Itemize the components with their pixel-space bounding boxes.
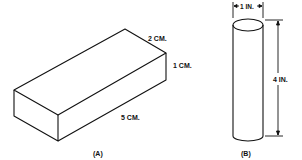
label-length: 5 CM. xyxy=(121,114,140,121)
cylinder-top-ellipse xyxy=(233,19,263,31)
label-height-a: 1 CM. xyxy=(173,62,192,69)
figure-a-box xyxy=(14,29,166,141)
caption-a: (A) xyxy=(93,150,103,158)
diagram-canvas: 2 CM. 1 CM. 5 CM. (A) 1 IN. 4 IN. (B) xyxy=(0,0,302,160)
box-side-edges xyxy=(58,53,166,141)
box-front-edges xyxy=(14,90,58,141)
box-top-face xyxy=(14,29,166,115)
label-width: 2 CM. xyxy=(148,35,167,42)
label-height-b: 4 IN. xyxy=(273,76,288,83)
caption-b: (B) xyxy=(241,150,251,158)
figure-b-cylinder xyxy=(233,19,263,141)
cylinder-bottom-arc xyxy=(233,136,263,141)
label-diameter: 1 IN. xyxy=(240,3,254,10)
